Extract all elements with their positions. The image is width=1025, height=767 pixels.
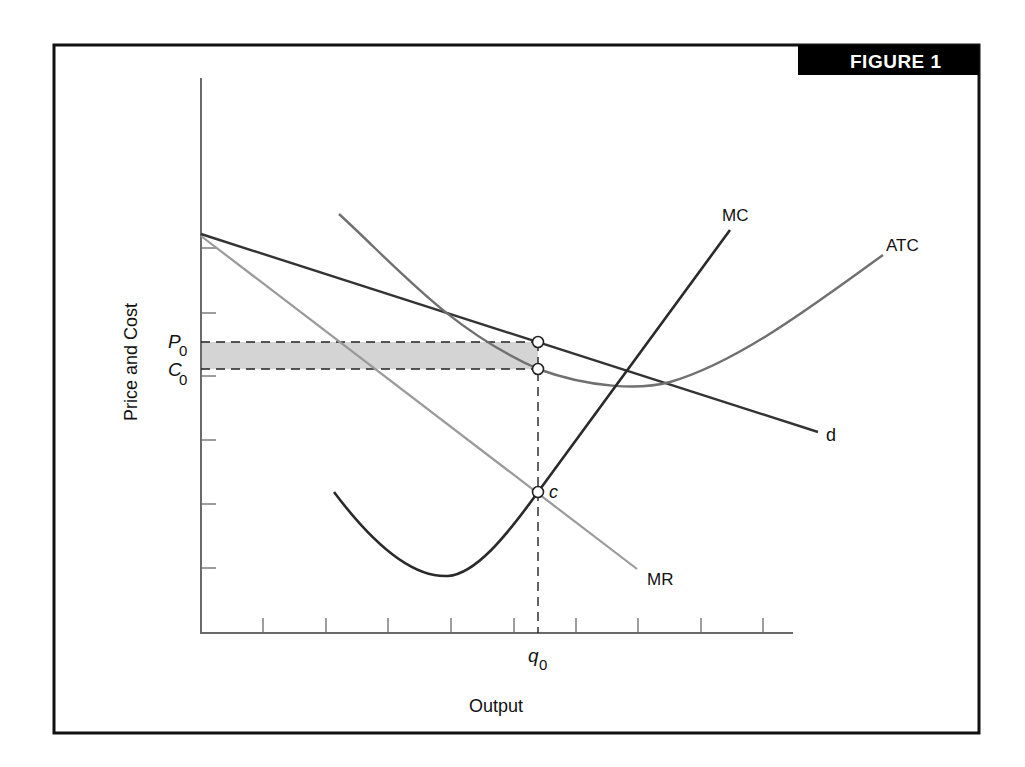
- mr-label: MR: [647, 570, 673, 589]
- figure-title: FIGURE 1: [850, 51, 942, 72]
- point-p0: [533, 337, 544, 348]
- point-c-label: c: [549, 482, 558, 502]
- atc-label: ATC: [886, 236, 919, 255]
- svg-text:0: 0: [539, 656, 547, 673]
- svg-text:q: q: [528, 645, 539, 666]
- svg-text:0: 0: [179, 371, 187, 388]
- x-axis-title: Output: [469, 696, 523, 716]
- svg-text:0: 0: [179, 342, 187, 359]
- demand-label: d: [826, 425, 836, 445]
- y-axis-title: Price and Cost: [121, 303, 141, 421]
- figure-canvas: FIGURE 1 MC: [0, 0, 1025, 767]
- point-c0: [533, 364, 544, 375]
- figure-title-badge: FIGURE 1: [798, 45, 979, 75]
- point-c: [533, 487, 544, 498]
- figure-frame: [54, 45, 979, 733]
- mc-label: MC: [722, 206, 748, 225]
